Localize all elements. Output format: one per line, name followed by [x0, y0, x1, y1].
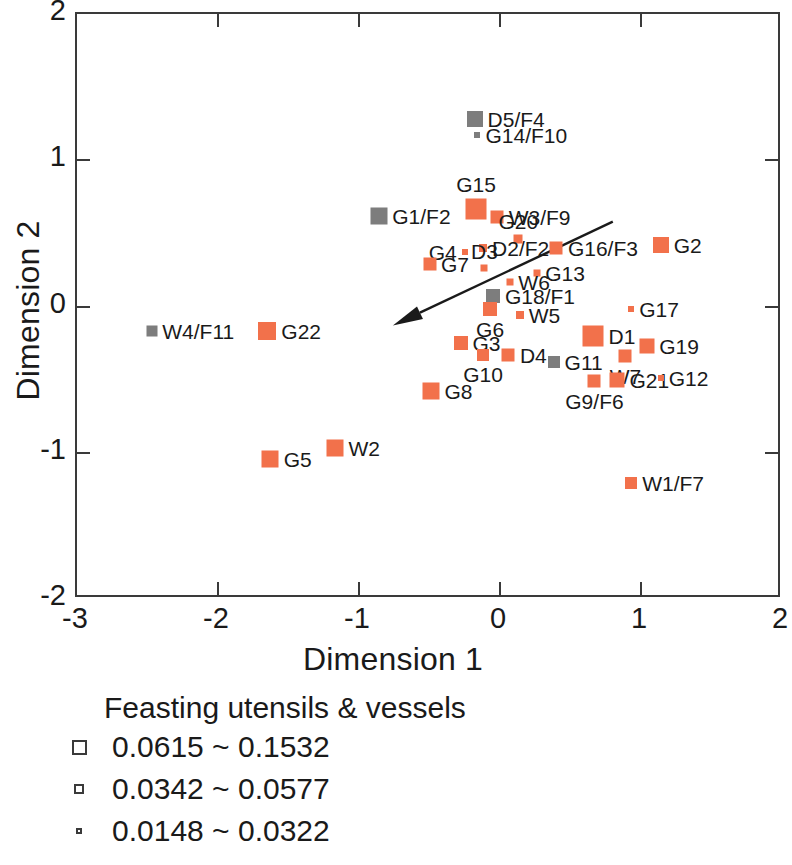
data-point[interactable] — [628, 306, 634, 312]
data-point-label: G13 — [545, 262, 585, 283]
legend-row: 0.0615 ~ 0.1532 — [46, 726, 786, 768]
data-point[interactable] — [653, 237, 669, 253]
y-tick-left — [77, 452, 90, 454]
data-point-label: G8 — [444, 381, 472, 402]
data-point-label: D1 — [609, 325, 636, 346]
data-point[interactable] — [625, 477, 637, 489]
legend: Feasting utensils & vessels 0.0615 ~ 0.1… — [0, 690, 786, 852]
x-tick-bot — [217, 582, 219, 595]
data-point[interactable] — [550, 242, 563, 255]
x-tick-bot — [358, 582, 360, 595]
data-point-label: W2 — [349, 438, 381, 459]
data-point-label: G11 — [565, 352, 603, 373]
data-point-label: W4/F11 — [162, 321, 234, 342]
x-tick-label: -1 — [327, 604, 387, 633]
data-point[interactable] — [658, 375, 664, 381]
legend-swatch-cell — [46, 740, 112, 755]
legend-label: 0.0342 ~ 0.0577 — [112, 774, 330, 804]
arrow-head — [393, 306, 423, 325]
legend-title: Feasting utensils & vessels — [104, 690, 786, 726]
x-tick-label: 0 — [468, 604, 528, 633]
plot-area: D5/F4G14/F10G15W3/F9G1/F2G20D2/F2G4G16/F… — [75, 12, 780, 597]
legend-label: 0.0148 ~ 0.0322 — [112, 816, 330, 846]
data-point[interactable] — [422, 383, 439, 400]
data-point-label: G15 — [456, 174, 496, 195]
y-tick-right — [765, 159, 778, 161]
data-point[interactable] — [639, 338, 654, 353]
data-point-label: G20 — [498, 211, 538, 232]
data-point-label: W1/F7 — [642, 473, 704, 494]
x-tick-top — [499, 14, 501, 27]
legend-rows: 0.0615 ~ 0.15320.0342 ~ 0.05770.0148 ~ 0… — [0, 726, 786, 852]
data-point-label: W5 — [529, 305, 561, 326]
data-point-label: G12 — [669, 368, 709, 389]
legend-row: 0.0148 ~ 0.0322 — [46, 810, 786, 852]
data-point[interactable] — [483, 302, 497, 316]
data-point[interactable] — [588, 375, 601, 388]
data-point[interactable] — [466, 198, 487, 219]
data-point[interactable] — [516, 311, 524, 319]
legend-swatch-cell — [46, 784, 112, 794]
y-axis-title: Dimension 2 — [10, 121, 47, 501]
data-point[interactable] — [583, 325, 604, 346]
data-point-label: G14/F10 — [485, 125, 567, 146]
legend-square-icon — [72, 740, 87, 755]
data-point-label: G17 — [639, 299, 679, 320]
x-tick-label: 2 — [750, 604, 792, 633]
data-point-label: D4 — [520, 344, 547, 365]
legend-row: 0.0342 ~ 0.0577 — [46, 768, 786, 810]
data-point[interactable] — [486, 289, 500, 303]
legend-label: 0.0615 ~ 0.1532 — [112, 732, 330, 762]
data-point[interactable] — [610, 372, 625, 387]
data-point-label: G1/F2 — [392, 205, 450, 226]
data-point[interactable] — [370, 207, 387, 224]
data-point[interactable] — [477, 349, 489, 361]
x-tick-bot — [499, 582, 501, 595]
data-point[interactable] — [548, 356, 560, 368]
y-tick-left — [77, 306, 90, 308]
x-tick-top — [358, 14, 360, 27]
legend-square-icon — [74, 784, 84, 794]
data-point[interactable] — [474, 132, 480, 138]
legend-swatch-cell — [46, 828, 112, 834]
data-point-label: G7 — [441, 254, 469, 275]
legend-square-icon — [76, 828, 82, 834]
data-point-label: G16/F3 — [568, 238, 638, 259]
x-tick-label: 1 — [609, 604, 669, 633]
data-point[interactable] — [481, 265, 488, 272]
data-point[interactable] — [454, 336, 468, 350]
data-point[interactable] — [262, 450, 279, 467]
data-point[interactable] — [327, 440, 344, 457]
x-tick-bot — [640, 582, 642, 595]
data-point-label: D2/F2 — [492, 238, 549, 259]
y-tick-label: 2 — [8, 0, 66, 25]
data-point[interactable] — [467, 111, 483, 127]
data-point[interactable] — [258, 322, 276, 340]
data-point-label: D3 — [471, 241, 498, 262]
data-point[interactable] — [146, 326, 157, 337]
y-tick-right — [765, 306, 778, 308]
x-tick-top — [217, 14, 219, 27]
data-point-label: G2 — [674, 235, 702, 256]
x-tick-label: -2 — [186, 604, 246, 633]
data-point[interactable] — [502, 348, 515, 361]
x-axis-title: Dimension 1 — [0, 641, 786, 678]
data-point-label: G9/F6 — [565, 391, 623, 412]
y-tick-left — [77, 159, 90, 161]
y-tick-right — [765, 452, 778, 454]
data-point-label: G19 — [659, 335, 699, 356]
data-point[interactable] — [423, 258, 436, 271]
x-tick-top — [640, 14, 642, 27]
data-point-label: G22 — [281, 321, 321, 342]
y-tick-label: -2 — [8, 581, 66, 610]
data-point[interactable] — [619, 350, 632, 363]
data-point-label: G5 — [284, 448, 312, 469]
